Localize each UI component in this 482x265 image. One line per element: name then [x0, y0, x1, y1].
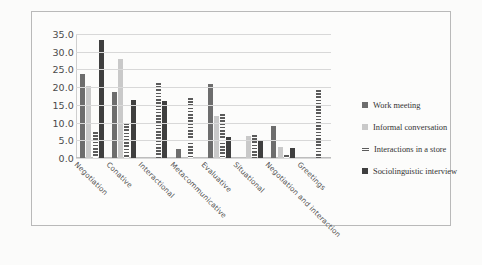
grid-line — [76, 34, 331, 35]
legend-swatch-icon — [362, 148, 369, 151]
x-axis-label: Greetings — [296, 160, 328, 192]
grid-line — [76, 87, 331, 88]
legend-item[interactable]: Informal conversation — [362, 122, 480, 132]
bar — [176, 149, 181, 158]
bar — [156, 83, 161, 158]
bar — [252, 135, 257, 158]
bar — [208, 84, 213, 158]
legend-swatch-icon — [362, 168, 368, 174]
y-axis-tick-labels: 35.030.025.020.015.010.05.00.0 — [40, 34, 74, 158]
bar — [188, 98, 193, 158]
bar — [258, 140, 263, 158]
grid-line — [76, 69, 331, 70]
x-axis-label: Situational — [232, 160, 267, 195]
legend-swatch-icon — [362, 124, 368, 130]
x-axis-label: Conative — [104, 160, 134, 190]
bar — [93, 132, 98, 158]
grid-line — [76, 158, 331, 159]
chart-frame: 35.030.025.020.015.010.05.00.0 Negotiati… — [31, 11, 451, 226]
legend-label: Sociolinguistic interview — [373, 167, 457, 176]
legend-swatch-icon — [362, 102, 368, 108]
bar — [118, 59, 123, 158]
figure-container: 35.030.025.020.015.010.05.00.0 Negotiati… — [0, 0, 482, 265]
legend-label: Informal conversation — [373, 123, 447, 132]
grid-line — [76, 105, 331, 106]
y-axis-tick-label: 30.0 — [52, 46, 74, 57]
bar — [112, 92, 117, 158]
legend-label: Interactions in a store — [374, 145, 446, 154]
legend-item[interactable]: Interactions in a store — [362, 144, 480, 154]
bar — [278, 147, 283, 158]
y-axis-tick-label: 0.0 — [59, 153, 74, 164]
y-axis-tick-label: 35.0 — [52, 29, 74, 40]
y-axis-tick-label: 5.0 — [59, 135, 74, 146]
y-axis-tick-label: 25.0 — [52, 64, 74, 75]
bar — [316, 90, 321, 158]
y-axis-tick-label: 20.0 — [52, 82, 74, 93]
x-axis-category-labels: NegotiationConativeInteractionalMetacomm… — [76, 160, 331, 220]
bar — [290, 148, 295, 158]
legend-item[interactable]: Work meeting — [362, 100, 480, 110]
chart-legend: Work meetingInformal conversationInterac… — [362, 100, 480, 188]
x-axis-label: Metacommunicative — [168, 160, 228, 220]
y-axis-tick-label: 10.0 — [52, 117, 74, 128]
bar — [131, 100, 136, 158]
grid-line — [76, 52, 331, 53]
y-axis-tick-label: 15.0 — [52, 99, 74, 110]
bar — [220, 114, 225, 158]
grid-line — [76, 140, 331, 141]
bar — [162, 101, 167, 158]
grid-line — [76, 123, 331, 124]
plot-area — [76, 34, 331, 158]
legend-label: Work meeting — [373, 101, 420, 110]
legend-item[interactable]: Sociolinguistic interview — [362, 166, 480, 176]
x-axis-label: Evaluative — [200, 160, 234, 194]
bar — [271, 126, 276, 158]
